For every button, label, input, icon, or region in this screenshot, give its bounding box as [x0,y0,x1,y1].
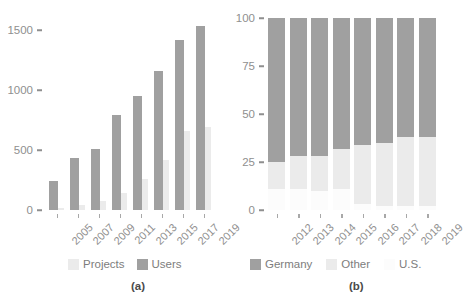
panel-a-x-tick-mark [57,214,59,218]
panel-b-bar-segment-germany [333,18,350,149]
panel-b-x-tick-mark [406,214,408,218]
panel-b-y-tick-label: 50 [242,108,255,120]
panel-a-legend-entry[interactable]: Users [137,258,182,270]
panel-b-x-tick-mark [384,214,386,218]
panel-a-bar-users [196,26,205,210]
panel-a-bar-users [133,96,142,210]
panel-b-bar-segment-other [268,162,285,189]
panel-a-x-tick-mark [78,214,80,218]
panel-b-plot-area [266,18,438,210]
panel-b-legend-label: U.S. [399,258,421,270]
legend-swatch-icon [68,259,79,270]
panel-b-bar-segment-germany [268,18,285,162]
panel-a-x-tick-label: 2005 [69,221,95,247]
panel-b-y-tick-mark [259,17,264,19]
panel-b-bar-segment-other [354,145,371,205]
panel-a-x-tick-label: 2009 [111,221,137,247]
panel-a-legend-entry[interactable]: Projects [68,258,125,270]
panel-b-bar-segment-germany [397,18,414,137]
panel-b-x-tick-label: 2017 [396,221,422,247]
panel-b-bar-segment-other [376,143,393,206]
panel-b-y-tick-label: 100 [236,12,255,24]
panel-b-x-tick-label: 2015 [353,221,379,247]
panel-b-legend-entry[interactable]: Other [326,258,370,270]
panel-a-y-tick-label: 500 [14,144,33,156]
panel-a-bar-users [175,40,184,210]
panel-a-x-tick-mark [204,214,206,218]
panel-b-bar-segment-other [397,137,414,206]
panel-b-legend-label: Other [341,258,370,270]
panel-a-x-tick-label: 2007 [90,221,116,247]
panel-a-y-tick-mark [37,149,42,151]
legend-swatch-icon [137,259,148,270]
panel-b-x-tick-mark [298,214,300,218]
panel-b-bar-segment-us [397,206,414,210]
panel-b-y-tick-label: 75 [242,60,255,72]
panel-a-x-tick-mark [141,214,143,218]
panel-b-tag: (b) [349,280,364,292]
panel-b-bar-segment-germany [290,18,307,156]
panel-b-bar-segment-us [333,189,350,210]
panel-b-bar-segment-other [290,156,307,189]
panel-a-legend-label: Projects [83,258,125,270]
panel-b-x-tick-mark [341,214,343,218]
panel-b-y-tick-label: 25 [242,156,255,168]
legend-swatch-icon [326,259,337,270]
panel-a-x-tick-mark [162,214,164,218]
panel-b-bar-segment-germany [354,18,371,145]
panel-b-x-tick-label: 2019 [439,221,465,247]
panel-b-x-tick-label: 2018 [418,221,444,247]
panel-a-x-tick-mark [183,214,185,218]
panel-a-bar-users [49,181,58,210]
panel-b-x-tick-label: 2012 [289,221,315,247]
panel-b-bar-segment-germany [311,18,328,156]
panel-a-bar-users [154,71,163,210]
panel-b-bar-segment-us [419,206,436,210]
panel-a: 050010001500 ProjectsUsers (a) 200520072… [0,0,222,302]
panel-b-bar-segment-us [268,189,285,210]
legend-swatch-icon [250,259,261,270]
panel-b-bar-segment-us [376,206,393,210]
panel-b-bar-segment-other [311,156,328,191]
panel-b-bar-segment-other [419,137,436,206]
panel-b-x-tick-mark [363,214,365,218]
panel-a-y-tick-mark [37,29,42,31]
panel-b-x-tick-mark [277,214,279,218]
panel-b-bar-segment-germany [419,18,436,137]
panel-a-y-tick-mark [37,89,42,91]
panel-a-x-tick-label: 2011 [131,221,156,246]
panel-b-bar-segment-us [290,189,307,210]
panel-b-x-tick-mark [427,214,429,218]
panel-a-bar-users [70,158,79,210]
panel-b-y-tick-mark [259,65,264,67]
panel-b-legend-entry[interactable]: U.S. [384,258,421,270]
panel-b-bar-segment-other [333,149,350,189]
panel-b: 0255075100 GermanyOtherU.S. (b) 20122013… [222,0,444,302]
panel-b-y-tick-mark [259,161,264,163]
panel-b-legend: GermanyOtherU.S. [250,258,435,270]
panel-b-x-tick-label: 2014 [332,221,358,247]
panel-b-legend-label: Germany [265,258,312,270]
panel-a-bar-users [91,149,100,210]
panel-a-x-tick-mark [99,214,101,218]
panel-b-bar-segment-us [311,191,328,210]
panel-a-y-tick-label: 1000 [7,84,33,96]
panel-a-x-tick-label: 2017 [195,221,221,247]
panel-a-y-tick-label: 1500 [7,24,33,36]
panel-a-y-tick-label: 0 [27,204,33,216]
panel-a-y-axis: 050010001500 [0,18,44,210]
panel-a-legend-label: Users [152,258,182,270]
panel-b-y-axis: 0255075100 [222,18,266,210]
panel-a-y-tick-mark [37,209,42,211]
panel-b-x-tick-label: 2016 [375,221,401,247]
panel-a-x-tick-label: 2015 [174,221,200,247]
panel-b-x-tick-mark [320,214,322,218]
panel-b-y-tick-label: 0 [249,204,255,216]
panel-b-bar-segment-us [354,204,371,210]
panel-b-bar-segment-germany [376,18,393,143]
panel-a-plot-area [44,18,212,210]
panel-b-y-tick-mark [259,209,264,211]
panel-b-legend-entry[interactable]: Germany [250,258,312,270]
panel-a-x-tick-label: 2013 [153,221,179,247]
